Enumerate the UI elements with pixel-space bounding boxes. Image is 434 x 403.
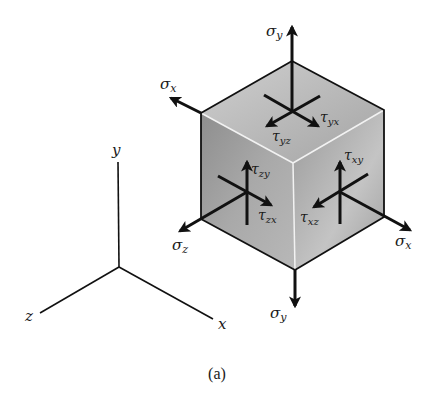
sigma-z-label: σz xyxy=(172,236,188,256)
x-axis xyxy=(119,267,213,319)
figure-caption: (a) xyxy=(0,365,434,383)
y-axis-label: y xyxy=(111,141,121,159)
sigma-x-right-label: σx xyxy=(395,232,412,252)
x-axis-label: x xyxy=(218,315,227,333)
y-axis xyxy=(118,162,119,267)
coordinate-axes: y z x xyxy=(24,141,227,333)
sigma-x-left-label: σx xyxy=(160,75,177,95)
sigma-y-top-label: σy xyxy=(266,22,283,42)
z-axis xyxy=(40,267,119,313)
sigma-y-bottom-label: σy xyxy=(270,304,287,324)
stress-element-diagram: y z x σy σy σx σ xyxy=(0,0,434,403)
z-axis-label: z xyxy=(24,307,33,325)
sigma-x-left-arrow xyxy=(171,98,201,113)
